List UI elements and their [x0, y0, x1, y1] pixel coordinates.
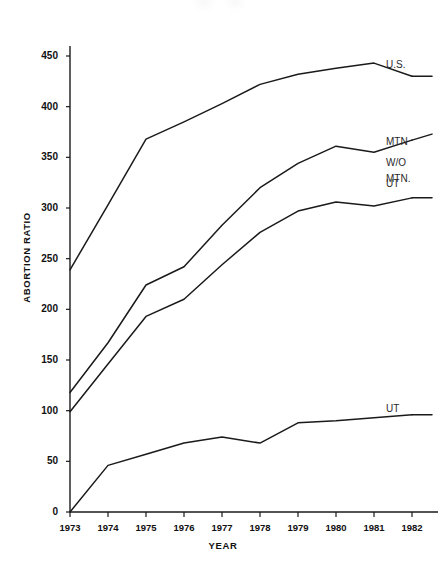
series-line-ut [70, 415, 412, 512]
y-tick-label: 50 [24, 455, 58, 466]
y-tick-label: 350 [24, 151, 58, 162]
series-label-mtn-wo-ut-line1: MTN [386, 137, 408, 148]
series-line-u-s [70, 63, 412, 270]
y-tick-label: 100 [24, 405, 58, 416]
series-label-ut: UT [386, 404, 399, 415]
series-line-mtn-w-o-ut [70, 140, 412, 392]
series-label-us: U.S. [386, 60, 405, 71]
x-tick-label: 1982 [390, 522, 434, 533]
y-tick-label: 400 [24, 101, 58, 112]
y-tick-label: 150 [24, 354, 58, 365]
series-leader-line [412, 134, 432, 140]
plot-area [0, 0, 446, 569]
series-label-mtn: MTN. [386, 174, 410, 185]
y-tick-label: 250 [24, 253, 58, 264]
x-axis-title: YEAR [0, 540, 446, 551]
y-tick-label: 450 [24, 50, 58, 61]
series-label-mtn-wo-ut-line2: W/O [386, 158, 408, 169]
y-tick-label: 0 [24, 506, 58, 517]
y-tick-label: 200 [24, 303, 58, 314]
series-label-mtn-wo-ut: MTN W/O UT [386, 126, 408, 200]
abortion-ratio-line-chart: ABORTION RATIO YEAR 05010015020025030035… [0, 0, 446, 569]
series-line-mtn [70, 198, 412, 412]
y-tick-label: 300 [24, 202, 58, 213]
